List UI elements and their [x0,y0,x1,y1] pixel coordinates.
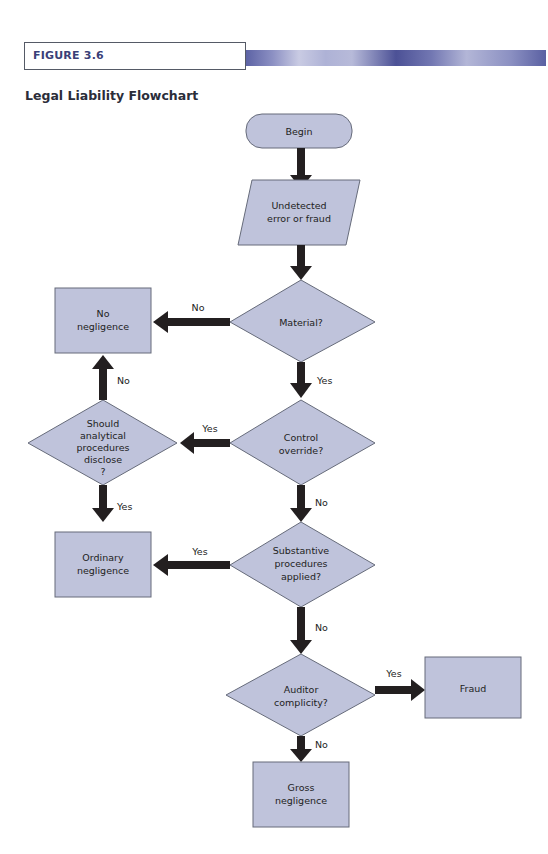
node-ordinary-negligence: Ordinary negligence [55,532,151,597]
node-analytical-line-4: disclose [84,454,122,465]
edge-label-control-no: No [315,497,328,508]
arrow-material-to-control: Yes [290,362,332,398]
node-complicity-line-1: Auditor [284,684,319,695]
node-analytical-line-2: analytical [80,430,126,441]
arrow-analytical-to-ordinary: Yes [92,485,132,522]
arrow-complicity-to-gross: No [290,736,328,762]
node-substantive: Substantive procedures applied? [230,522,375,607]
node-gross-line-2: negligence [275,795,327,806]
node-ordinary-line-2: negligence [77,565,129,576]
node-control-override: Control override? [230,400,375,485]
node-analytical-line-1: Should [87,418,120,429]
node-should-analytical: Should analytical procedures disclose ? [28,400,177,485]
node-control-line-1: Control [284,432,318,443]
edge-label-substantive-yes: Yes [191,546,207,557]
node-gross-line-1: Gross [288,782,315,793]
node-ordinary-line-1: Ordinary [82,552,124,563]
node-begin: Begin [246,114,352,148]
edge-label-control-yes: Yes [201,423,217,434]
node-no-negligence-line-1: No [97,308,110,319]
arrow-undetected-to-material [290,245,312,280]
node-undetected-line-2: error or fraud [267,213,331,224]
node-undetected-line-1: Undetected [271,200,326,211]
arrow-material-to-no-negligence: No [153,302,230,333]
node-undetected: Undetected error or fraud [238,180,360,245]
node-fraud: Fraud [425,657,521,718]
node-material-label: Material? [279,317,323,328]
node-auditor-complicity: Auditor complicity? [226,654,375,736]
arrow-substantive-to-complicity: No [290,607,328,654]
edge-label-material-yes: Yes [316,375,332,386]
node-control-line-2: override? [279,445,323,456]
node-analytical-line-3: procedures [76,442,129,453]
node-analytical-line-5: ? [100,466,105,477]
node-gross-negligence: Gross negligence [253,762,349,827]
arrow-control-to-substantive: No [290,485,328,522]
edge-label-complicity-yes: Yes [385,668,401,679]
flowchart: Begin Undetected error or fraud Material… [0,0,548,854]
node-no-negligence: No negligence [55,288,151,353]
edge-label-analytical-no: No [117,375,130,386]
node-substantive-line-1: Substantive [273,545,330,556]
arrow-substantive-to-ordinary: Yes [153,546,230,576]
node-complicity-line-2: complicity? [274,697,328,708]
node-material: Material? [230,280,375,362]
arrow-control-to-analytical: Yes [180,423,230,454]
node-fraud-label: Fraud [460,683,487,694]
node-no-negligence-line-2: negligence [77,321,129,332]
edge-label-complicity-no: No [315,739,328,750]
node-substantive-line-2: procedures [274,558,327,569]
node-substantive-line-3: applied? [281,571,321,582]
edge-label-substantive-no: No [315,622,328,633]
edge-label-analytical-yes: Yes [116,501,132,512]
node-begin-label: Begin [285,126,312,137]
arrow-analytical-to-no-negligence: No [92,355,130,400]
edge-label-material-no: No [192,302,205,313]
arrow-complicity-to-fraud: Yes [375,668,425,701]
